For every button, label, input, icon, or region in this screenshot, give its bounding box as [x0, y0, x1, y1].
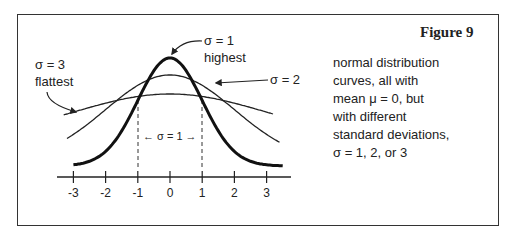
arrow-sigma-2: [216, 80, 268, 83]
description-line: standard deviations,: [333, 126, 449, 144]
tick-label: 3: [257, 186, 277, 200]
description-line: with different: [333, 108, 449, 126]
tick-label: -2: [96, 186, 116, 200]
description-line: normal distribution: [333, 54, 449, 72]
tick-label: -1: [128, 186, 148, 200]
tick-label: 2: [224, 186, 244, 200]
tick-label: 1: [192, 186, 212, 200]
curve-sigma-1: [73, 58, 282, 166]
description-line: mean μ = 0, but: [333, 90, 449, 108]
arrow-sigma-1: [172, 41, 202, 54]
tick-label: -3: [63, 186, 83, 200]
tick-label: 0: [160, 186, 180, 200]
sigma-1-label: σ = 1: [204, 33, 234, 49]
sigma-3-sublabel: flattest: [35, 74, 73, 90]
sigma-2-label: σ = 2: [270, 72, 300, 88]
interval-label: ← σ = 1 →: [143, 128, 197, 144]
sigma-3-label: σ = 3: [35, 57, 65, 73]
description-line: curves, all with: [333, 72, 449, 90]
description-line: σ = 1, 2, or 3: [333, 144, 449, 162]
sigma-1-sublabel: highest: [204, 50, 246, 66]
curve-sigma-3: [64, 94, 273, 115]
figure-title: Figure 9: [420, 24, 473, 41]
figure-description: normal distribution curves, all with mea…: [333, 54, 449, 162]
arrow-sigma-3: [47, 92, 76, 112]
